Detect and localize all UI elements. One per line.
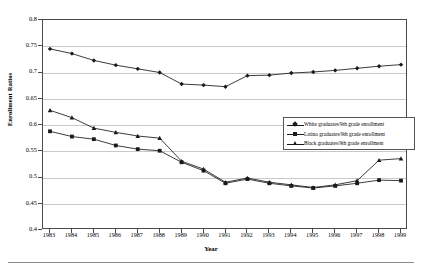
- y-axis-tick-label: 0.55: [3, 147, 37, 153]
- legend-item: White graduates/9th grade enrollment: [287, 121, 411, 131]
- x-axis-tick-mark: [181, 229, 182, 233]
- legend-marker-square-icon: [287, 130, 304, 139]
- x-axis-tick-mark: [71, 229, 72, 233]
- data-point: [201, 83, 205, 87]
- legend-marker-diamond-icon: [287, 121, 304, 130]
- data-point: [355, 66, 359, 70]
- x-axis-title: Year: [0, 245, 422, 252]
- x-axis-tick-mark: [356, 229, 357, 233]
- data-point: [289, 71, 293, 75]
- data-point: [311, 70, 315, 74]
- data-point: [92, 58, 96, 62]
- data-point: [114, 144, 118, 148]
- data-point: [92, 137, 96, 141]
- legend-label: Latino graduates/9th grade enrollment: [304, 132, 385, 138]
- legend-marker-triangle-icon: [287, 140, 304, 149]
- x-axis-tick-mark: [378, 229, 379, 233]
- legend-label: White graduates/9th grade enrollment: [304, 122, 384, 128]
- data-point: [48, 108, 53, 112]
- data-point: [92, 126, 97, 130]
- legend-item: Latino graduates/9th grade enrollment: [287, 130, 411, 140]
- data-point: [114, 63, 118, 67]
- data-point: [399, 62, 403, 66]
- x-axis-tick-mark: [115, 229, 116, 233]
- data-point: [245, 73, 249, 77]
- footer-divider: [8, 262, 414, 263]
- x-axis-tick-mark: [312, 229, 313, 233]
- plot-area: White graduates/9th grade enrollmentLati…: [42, 19, 407, 229]
- x-axis-tick-mark: [137, 229, 138, 233]
- legend: White graduates/9th grade enrollmentLati…: [283, 117, 415, 150]
- x-axis-tick-mark: [400, 229, 401, 233]
- y-axis-tick-mark: [38, 229, 42, 230]
- data-point: [399, 179, 403, 183]
- x-axis-tick-mark: [334, 229, 335, 233]
- legend-label: Black graduates/9th grade enrollment: [304, 141, 384, 147]
- data-point: [136, 147, 140, 151]
- data-point: [48, 47, 52, 51]
- x-axis-tick-mark: [225, 229, 226, 233]
- data-series: [48, 47, 403, 89]
- data-point: [377, 178, 381, 182]
- data-point: [333, 68, 337, 72]
- data-point: [70, 135, 74, 139]
- y-axis-title: Enrollment Ratios: [6, 58, 13, 142]
- x-axis-tick-mark: [268, 229, 269, 233]
- x-axis-tick-mark: [246, 229, 247, 233]
- data-point: [136, 67, 140, 71]
- data-point: [267, 73, 271, 77]
- y-axis-tick-label: 0.8: [3, 16, 37, 22]
- legend-item: Black graduates/9th grade enrollment: [287, 140, 411, 150]
- x-axis-tick-mark: [203, 229, 204, 233]
- x-axis-tick-mark: [159, 229, 160, 233]
- chart-figure: 0.40.450.50.550.60.650.70.750.8 Enrollme…: [0, 0, 422, 271]
- x-axis-tick-mark: [290, 229, 291, 233]
- x-axis-tick-mark: [49, 229, 50, 233]
- y-axis-tick-label: 0.75: [3, 42, 37, 48]
- data-point: [223, 84, 227, 88]
- data-point: [158, 149, 162, 153]
- data-point: [70, 51, 74, 55]
- data-point: [48, 129, 52, 133]
- data-point: [179, 82, 183, 86]
- x-axis-tick-mark: [93, 229, 94, 233]
- data-point: [377, 64, 381, 68]
- y-axis-tick-label: 0.4: [3, 226, 37, 232]
- data-point: [157, 70, 161, 74]
- y-axis-tick-label: 0.45: [3, 200, 37, 206]
- y-axis-tick-label: 0.5: [3, 173, 37, 179]
